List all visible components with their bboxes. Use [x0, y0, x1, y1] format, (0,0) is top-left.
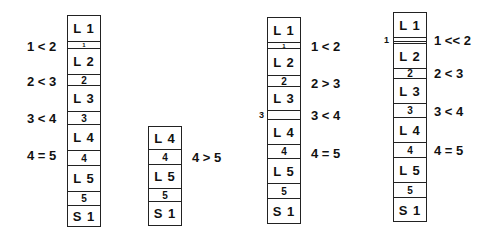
disc-2: 2 — [268, 76, 300, 87]
disc-1: 1 — [68, 42, 100, 49]
vertebra-l4: L 4 — [268, 120, 300, 145]
vertebra-l3: L 3 — [68, 86, 100, 112]
disc-5: 5 — [268, 184, 300, 199]
disc-2: 2 — [394, 69, 426, 79]
comparison-label: 3 < 4 — [27, 111, 56, 126]
spine-column-c: L 1 1 L 2 2 L 3 L 4 4 L 5 5 S 1 — [267, 17, 301, 224]
vertebra-l5: L 5 — [394, 158, 426, 183]
vertebra-l3: L 3 — [268, 87, 300, 111]
vertebra-l4: L 4 — [394, 118, 426, 143]
disc-side-label: 3 — [259, 110, 264, 120]
comparison-label: 1 < 2 — [311, 39, 340, 54]
comparison-label: 3 < 4 — [311, 108, 340, 123]
vertebra-s1: S 1 — [68, 206, 100, 227]
disc-side-label: 1 — [384, 35, 389, 45]
vertebra-s1: S 1 — [394, 198, 426, 222]
comparison-label: 2 > 3 — [311, 76, 340, 91]
vertebra-l5: L 5 — [68, 166, 100, 192]
vertebra-l4: L 4 — [149, 127, 181, 150]
disc-3 — [268, 111, 300, 120]
vertebra-l4: L 4 — [68, 125, 100, 151]
disc-3: 3 — [394, 104, 426, 118]
comparison-label: 2 < 3 — [434, 66, 463, 81]
disc-4: 4 — [68, 151, 100, 166]
disc-2: 2 — [68, 75, 100, 86]
comparison-label: 4 = 5 — [311, 146, 340, 161]
vertebra-l5: L 5 — [268, 159, 300, 184]
vertebra-l2: L 2 — [268, 49, 300, 76]
vertebra-l2: L 2 — [394, 44, 426, 69]
vertebra-l3: L 3 — [394, 79, 426, 104]
disc-3: 3 — [68, 112, 100, 125]
vertebra-l2: L 2 — [68, 49, 100, 75]
disc-4: 4 — [149, 150, 181, 165]
comparison-label: 3 < 4 — [434, 104, 463, 119]
spine-column-d: L 1 L 2 2 L 3 3 L 4 4 L 5 5 S 1 — [393, 12, 427, 222]
disc-4: 4 — [394, 143, 426, 158]
disc-5: 5 — [149, 189, 181, 202]
comparison-label: 1 < 2 — [27, 39, 56, 54]
vertebra-s1: S 1 — [268, 199, 300, 224]
vertebra-l1: L 1 — [394, 13, 426, 38]
vertebra-l5: L 5 — [149, 165, 181, 189]
disc-5: 5 — [394, 183, 426, 198]
comparison-label: 1 << 2 — [434, 33, 471, 48]
vertebra-l1: L 1 — [68, 16, 100, 42]
spine-column-a: L 1 1 L 2 2 L 3 3 L 4 4 L 5 5 S 1 — [67, 15, 101, 227]
vertebra-s1: S 1 — [149, 202, 181, 225]
disc-4: 4 — [268, 145, 300, 159]
comparison-label: 4 = 5 — [27, 148, 56, 163]
spine-column-b: L 4 4 L 5 5 S 1 — [148, 126, 182, 226]
vertebra-l1: L 1 — [268, 18, 300, 43]
comparison-label: 4 = 5 — [434, 143, 463, 158]
disc-5: 5 — [68, 192, 100, 206]
comparison-label: 2 < 3 — [27, 74, 56, 89]
comparison-label: 4 > 5 — [192, 150, 221, 165]
